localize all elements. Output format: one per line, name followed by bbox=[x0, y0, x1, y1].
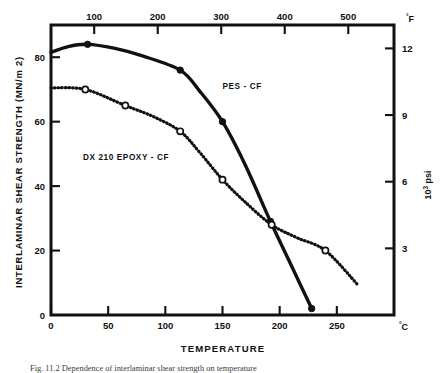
figure-caption: Fig. 11.2 Dependence of interlaminar she… bbox=[30, 364, 257, 373]
left-tick-label-40: 40 bbox=[34, 181, 45, 192]
right-tick-label-3: 3 bbox=[402, 243, 407, 254]
left-tick-label-60: 60 bbox=[34, 116, 45, 127]
series-pes-cf-curve bbox=[51, 44, 312, 308]
data-point-s1-2 bbox=[177, 128, 183, 134]
y-axis-title: INTERLAMINAR SHEAR STRENGTH (MN/m 2) bbox=[13, 56, 24, 288]
bottom-tick-label-200: 200 bbox=[272, 320, 288, 331]
interlaminar-shear-strength-chart: 100200300400500 050100150200250 02040608… bbox=[0, 0, 442, 373]
top-tick-label-500: 500 bbox=[340, 11, 356, 22]
data-point-s0-0 bbox=[84, 41, 90, 47]
figure-container: 100200300400500 050100150200250 02040608… bbox=[0, 0, 442, 373]
top-tick-label-300: 300 bbox=[213, 11, 229, 22]
series-label-dx210-epoxy-cf: DX 210 EPOXY - CF bbox=[83, 153, 169, 162]
data-point-s0-1 bbox=[177, 67, 183, 73]
data-point-s1-1 bbox=[122, 102, 128, 108]
bottom-tick-label-250: 250 bbox=[329, 320, 345, 331]
bottom-tick-label-50: 50 bbox=[103, 320, 114, 331]
left-axis-tick-labels: 020406080 bbox=[34, 52, 45, 321]
right-tick-label-9: 9 bbox=[402, 110, 407, 121]
right-axis-unit-suffix: psi bbox=[423, 170, 433, 186]
series-dx210-epoxy-cf-curve bbox=[51, 88, 357, 285]
right-tick-label-6: 6 bbox=[402, 176, 407, 187]
left-tick-label-20: 20 bbox=[34, 245, 45, 256]
top-tick-label-400: 400 bbox=[277, 11, 293, 22]
top-axis-tick-labels: 100200300400500 bbox=[86, 11, 356, 22]
data-point-s1-5 bbox=[322, 247, 328, 253]
series-label-pes-cf: PES - CF bbox=[223, 82, 262, 91]
bottom-tick-label-0: 0 bbox=[48, 320, 53, 331]
data-point-s0-2 bbox=[219, 118, 225, 124]
bottom-tick-label-150: 150 bbox=[215, 320, 231, 331]
bottom-axis-tick-labels: 050100150200250 bbox=[48, 320, 344, 331]
right-axis-tick-labels: 36912 bbox=[402, 43, 413, 254]
data-point-s1-0 bbox=[82, 86, 88, 92]
right-axis-unit-label: 103 psi bbox=[422, 170, 434, 199]
top-axis-unit-label: °F bbox=[406, 13, 415, 24]
bottom-axis-unit-label: °C bbox=[399, 321, 409, 332]
top-tick-label-200: 200 bbox=[150, 11, 166, 22]
right-axis-unit-prefix: 10 bbox=[423, 190, 433, 200]
bottom-tick-label-100: 100 bbox=[157, 320, 173, 331]
plot-frame bbox=[51, 25, 394, 315]
left-tick-label-80: 80 bbox=[34, 52, 45, 63]
data-point-s1-4 bbox=[269, 222, 275, 228]
x-axis-title: TEMPERATURE bbox=[181, 343, 265, 354]
series-dx210-epoxy-cf-markers bbox=[82, 86, 328, 253]
left-tick-label-0: 0 bbox=[40, 310, 45, 321]
top-tick-label-100: 100 bbox=[86, 11, 102, 22]
series-pes-cf-markers bbox=[84, 41, 314, 312]
data-point-s0-4 bbox=[308, 305, 314, 311]
right-tick-label-12: 12 bbox=[402, 43, 413, 54]
data-point-s1-3 bbox=[219, 177, 225, 183]
